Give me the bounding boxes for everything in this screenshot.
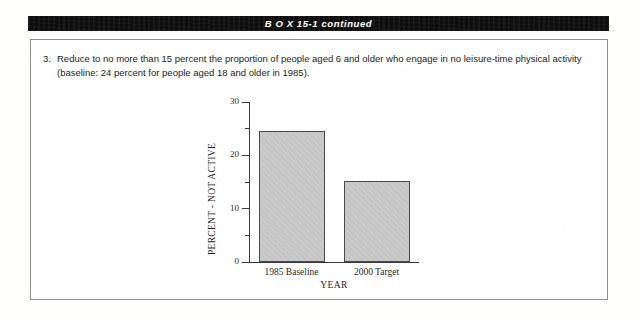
y-tick-major bbox=[242, 262, 249, 263]
x-axis-line bbox=[249, 262, 419, 263]
box-header-title: B O X 15-1 continued bbox=[265, 18, 373, 29]
box-content-panel: 3. Reduce to no more than 15 percent the… bbox=[30, 39, 608, 300]
box-header-bar: B O X 15-1 continued bbox=[28, 16, 609, 31]
bar bbox=[344, 181, 410, 262]
goal-list-item: 3. Reduce to no more than 15 percent the… bbox=[43, 52, 591, 79]
y-tick-major bbox=[242, 208, 249, 209]
y-tick-label: 20 bbox=[217, 149, 239, 159]
bar bbox=[259, 131, 325, 262]
y-tick-label: 0 bbox=[217, 256, 239, 266]
scanned-page: B O X 15-1 continued 3. Reduce to no mor… bbox=[0, 0, 640, 322]
y-tick-minor bbox=[245, 182, 250, 183]
y-tick-label: 10 bbox=[217, 203, 239, 213]
y-tick-minor bbox=[245, 128, 250, 129]
y-tick-minor bbox=[245, 235, 250, 236]
category-label: 2000 Target bbox=[334, 267, 419, 277]
x-axis-title: YEAR bbox=[249, 280, 419, 290]
y-axis-title: PERCENT - NOT ACTIVE bbox=[207, 143, 217, 255]
y-axis-line bbox=[249, 102, 250, 263]
goal-item-text: Reduce to no more than 15 percent the pr… bbox=[57, 52, 591, 79]
y-tick-major bbox=[242, 155, 249, 156]
y-tick-major bbox=[242, 102, 249, 103]
goal-item-number: 3. bbox=[43, 52, 57, 66]
y-tick-label: 30 bbox=[217, 96, 239, 106]
category-label: 1985 Baseline bbox=[249, 267, 334, 277]
bar-chart: 0102030 1985 Baseline2000 Target YEAR PE… bbox=[191, 95, 451, 295]
